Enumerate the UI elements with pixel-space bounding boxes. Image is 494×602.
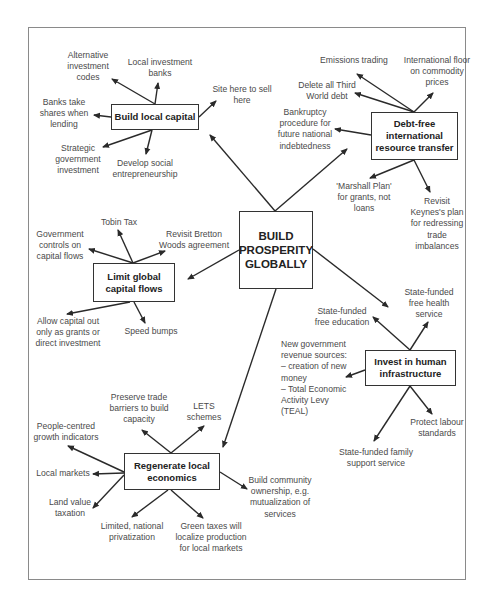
- leaf-local-markets: Local markets: [34, 468, 92, 479]
- leaf-protect-labour-standards: Protect labour standards: [405, 417, 469, 439]
- leaf-tobin-tax: Tobin Tax: [94, 217, 144, 228]
- leaf-government-controls-capital-flows: Government controls on capital flows: [34, 229, 86, 263]
- leaf-limited-national-privatization: Limited, national privatization: [96, 521, 168, 543]
- leaf-speed-bumps: Speed bumps: [122, 326, 180, 337]
- leaf-bankruptcy-procedure: Bankruptcy procedure for future national…: [276, 107, 334, 152]
- leaf-strategic-government-investment: Strategic government investment: [52, 143, 104, 177]
- leaf-lets-schemes: LETS schemes: [184, 401, 224, 423]
- leaf-state-funded-free-health-service: State-funded free health service: [400, 287, 458, 321]
- leaf-preserve-trade-barriers: Preserve trade barriers to build capacit…: [104, 392, 174, 426]
- leaf-state-funded-free-education: State-funded free education: [312, 306, 372, 328]
- central-topic-box[interactable]: BUILD PROSPERITY GLOBALLY: [239, 211, 313, 289]
- leaf-alternative-investment-codes: Alternative investment codes: [56, 50, 120, 84]
- leaf-marshall-plan: 'Marshall Plan' for grants, not loans: [332, 181, 396, 215]
- hub-debt-free-transfer[interactable]: Debt-free international resource transfe…: [371, 112, 458, 160]
- leaf-revisit-keynes-plan: Revisit Keynes's plan for redressing tra…: [407, 196, 467, 252]
- hub-build-local-capital[interactable]: Build local capital: [111, 104, 199, 130]
- leaf-banks-take-shares: Banks take shares when lending: [36, 97, 92, 131]
- leaf-emissions-trading: Emissions trading: [314, 55, 394, 66]
- hub-invest-human-infrastructure[interactable]: Invest in human infrastructure: [365, 350, 456, 386]
- hub-limit-capital-flows[interactable]: Limit global capital flows: [93, 263, 175, 302]
- leaf-people-centred-growth-indicators: People-centred growth indicators: [32, 421, 100, 443]
- leaf-local-investment-banks: Local investment banks: [120, 57, 200, 79]
- leaf-develop-social-entrepreneurship: Develop social entrepreneurship: [110, 158, 180, 180]
- leaf-site-here-to-sell-here: Site here to sell here: [204, 84, 280, 106]
- leaf-delete-third-world-debt: Delete all Third World debt: [295, 80, 359, 102]
- leaf-new-government-revenue-sources: New government revenue sources: – creati…: [281, 339, 351, 417]
- leaf-revisit-bretton-woods: Revisit Bretton Woods agreement: [156, 229, 232, 251]
- leaf-allow-capital-out: Allow capital out only as grants or dire…: [34, 316, 102, 350]
- leaf-state-funded-family-support: State-funded family support service: [334, 447, 418, 469]
- leaf-green-taxes: Green taxes will localize production for…: [170, 521, 252, 555]
- hub-regenerate-local-economics[interactable]: Regenerate local economics: [124, 453, 220, 490]
- leaf-build-community-ownership: Build community ownership, e.g. mutualiz…: [244, 475, 316, 520]
- leaf-international-floor-commodity-prices: International floor on commodity prices: [400, 55, 474, 89]
- leaf-land-value-taxation: Land value taxation: [46, 497, 94, 519]
